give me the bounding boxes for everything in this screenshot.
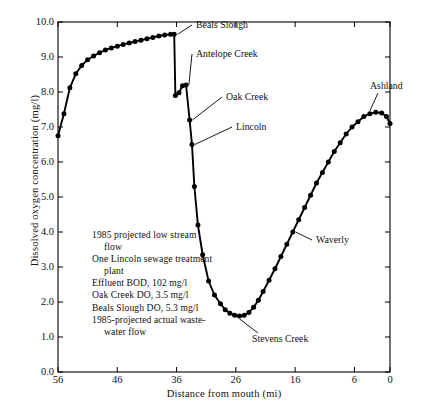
note-line: Effluent BOD, 102 mg/l	[92, 277, 260, 289]
data-point	[176, 90, 181, 95]
chart-figure: Dissolved oxygen concentration (mg/l) Di…	[0, 0, 446, 405]
data-point	[187, 118, 192, 123]
data-point	[121, 42, 126, 47]
annotation-oak-creek: Oak Creek	[192, 91, 268, 120]
data-point	[139, 38, 144, 43]
data-point	[344, 132, 349, 137]
data-point	[332, 149, 337, 154]
data-point	[367, 111, 372, 116]
note-line: Beals Slough DO, 5.3 mg/l	[92, 302, 260, 314]
data-point	[284, 242, 289, 247]
data-point	[314, 181, 319, 186]
note-line: flow	[92, 241, 260, 253]
annotation-ashland: Ashland	[370, 80, 403, 111]
annotation-label: Beals Slough	[196, 19, 248, 30]
leader-line	[195, 127, 232, 145]
data-point	[109, 45, 114, 50]
annotation-antelope-creek: Antelope Creek	[189, 48, 258, 85]
data-point	[261, 289, 266, 294]
annotation-beals-slough: Beals Slough	[178, 19, 248, 34]
data-point	[162, 32, 167, 37]
annotation-label: Oak Creek	[226, 91, 268, 102]
annotation-label: Stevens Creek	[252, 333, 308, 344]
data-point	[61, 111, 66, 116]
data-point	[290, 230, 295, 235]
data-point	[97, 50, 102, 55]
note-line: One Lincoln sewage treatment	[92, 253, 260, 265]
data-point	[278, 254, 283, 259]
leader-line	[370, 93, 378, 111]
data-point	[172, 32, 177, 37]
data-point	[192, 184, 197, 189]
data-point	[361, 114, 366, 119]
data-point	[184, 83, 189, 88]
data-point	[373, 110, 378, 115]
note-line: 1985 projected low stream	[92, 229, 260, 241]
annotation-waverly: Waverly	[296, 232, 349, 245]
data-point	[127, 41, 132, 46]
data-point	[133, 39, 138, 44]
data-point	[156, 34, 161, 39]
data-point	[384, 114, 389, 119]
data-point	[272, 266, 277, 271]
data-point	[150, 35, 155, 40]
data-point	[91, 53, 96, 58]
data-point	[195, 223, 200, 228]
data-point	[73, 71, 78, 76]
leader-line	[189, 54, 192, 85]
leader-line	[192, 97, 222, 120]
data-point	[79, 63, 84, 68]
annotation-lincoln: Lincoln	[195, 121, 267, 145]
data-point	[326, 160, 331, 165]
note-line: plant	[92, 265, 260, 277]
note-line: water flow	[92, 326, 260, 338]
data-point	[189, 142, 194, 147]
annotation-label: Antelope Creek	[196, 48, 258, 59]
data-point	[67, 85, 72, 90]
data-point	[388, 121, 393, 126]
chart-svg: Beals SloughAntelope CreekOak CreekLinco…	[0, 0, 446, 405]
leader-line	[178, 25, 192, 34]
data-point	[355, 119, 360, 124]
note-line: 1985-projected actual waste-	[92, 314, 260, 326]
data-point	[379, 111, 384, 116]
note-line: Oak Creek DO, 3.5 mg/l	[92, 289, 260, 301]
data-point	[267, 278, 272, 283]
data-point	[320, 170, 325, 175]
data-point	[308, 193, 313, 198]
leader-line	[296, 232, 312, 240]
data-point	[56, 133, 61, 138]
chart-note-block: 1985 projected low streamflowOne Lincoln…	[92, 229, 260, 338]
data-point	[302, 205, 307, 210]
annotation-label: Ashland	[370, 80, 403, 91]
data-point	[350, 125, 355, 130]
data-point	[296, 217, 301, 222]
annotation-label: Waverly	[316, 234, 349, 245]
annotation-label: Lincoln	[236, 121, 267, 132]
data-point	[144, 36, 149, 41]
data-point	[115, 44, 120, 49]
data-point	[85, 57, 90, 62]
data-point	[338, 140, 343, 145]
data-point	[103, 48, 108, 53]
plot-area: Beals SloughAntelope CreekOak CreekLinco…	[0, 0, 446, 405]
